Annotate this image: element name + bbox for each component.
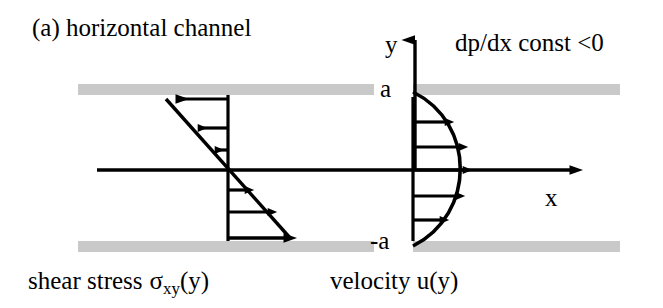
y-axis-label: y (385, 32, 398, 57)
velocity-caption: velocity u(y) (330, 268, 458, 293)
pressure-gradient-annotation: dp/dx const <0 (455, 30, 604, 55)
channel-flow-figure: (a) horizontal channel dp/dx const <0 y … (0, 0, 663, 308)
sigma-glyph: σ (150, 267, 163, 294)
x-axis-label: x (545, 185, 558, 210)
shear-stress-profile (166, 95, 291, 241)
shear-stress-caption: shear stressσxy(y) (28, 268, 209, 297)
shear-symbol-group: σxy(y) (150, 268, 210, 297)
wall-top-label: a (380, 76, 391, 101)
velocity-profile (413, 92, 463, 246)
channel-wall-bottom (78, 241, 620, 252)
figure-title: (a) horizontal channel (32, 15, 251, 40)
wall-bottom-label: -a (370, 228, 389, 253)
shear-caption-text: shear stress (28, 267, 143, 294)
channel-wall-top (78, 84, 620, 95)
sigma-argument: (y) (180, 267, 209, 294)
sigma-subscript: xy (163, 279, 180, 298)
